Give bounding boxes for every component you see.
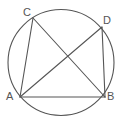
vertex-label-d: D [103, 15, 111, 26]
vertex-label-a: A [6, 91, 13, 102]
chord-ad [20, 27, 102, 97]
geometry-canvas [0, 0, 118, 128]
vertex-label-b: B [107, 91, 114, 102]
chord-ca [20, 18, 33, 97]
geometry-figure: C D A B [0, 0, 118, 128]
chord-cb [33, 18, 105, 97]
vertex-label-c: C [23, 7, 31, 18]
chord-db [102, 27, 105, 97]
